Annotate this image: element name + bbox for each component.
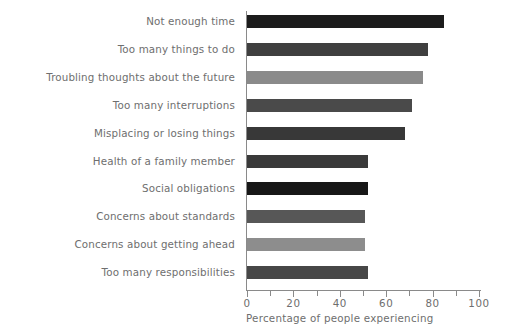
x-tick-label: 60 [379,297,393,309]
category-label: Too many things to do [0,44,235,55]
category-label: Troubling thoughts about the future [0,72,235,83]
x-tick-label: 40 [333,297,347,309]
bar [247,182,368,195]
bar [247,99,412,112]
bar [247,15,444,28]
y-axis-line [246,11,247,291]
x-axis-title: Percentage of people experiencing [246,312,433,324]
x-tick [270,291,271,296]
bar [247,266,368,279]
x-tick-label: 100 [468,297,489,309]
bar [247,155,368,168]
x-tick-label: 80 [425,297,439,309]
category-label: Too many interruptions [0,100,235,111]
bar [247,238,365,251]
category-label: Concerns about getting ahead [0,239,235,250]
category-label: Concerns about standards [0,211,235,222]
x-tick [456,291,457,296]
x-tick-label: 20 [286,297,300,309]
category-label: Social obligations [0,183,235,194]
x-tick [409,291,410,296]
bar [247,127,405,140]
x-tick [363,291,364,296]
category-label: Not enough time [0,16,235,27]
x-tick [317,291,318,296]
bar [247,210,365,223]
bar-chart: Not enough timeToo many things to doTrou… [0,0,515,331]
bar [247,43,428,56]
category-axis-labels: Not enough timeToo many things to doTrou… [0,11,241,290]
x-tick-label: 0 [243,297,250,309]
category-label: Too many responsibilities [0,267,235,278]
bar [247,71,423,84]
category-label: Health of a family member [0,156,235,167]
plot-area [247,11,487,290]
category-label: Misplacing or losing things [0,128,235,139]
